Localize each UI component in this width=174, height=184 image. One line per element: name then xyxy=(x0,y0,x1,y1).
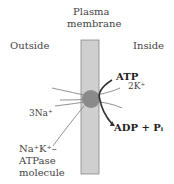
pump-label-line1: Na⁺K⁺– xyxy=(19,143,57,154)
pump-label-line2: ATPase xyxy=(19,155,56,166)
title-line2: membrane xyxy=(67,18,121,29)
pump-icon xyxy=(82,90,100,108)
title-line1: Plasma xyxy=(73,6,109,17)
pump-pointer xyxy=(53,106,84,146)
outside-label: Outside xyxy=(10,40,49,51)
inside-label: Inside xyxy=(133,40,164,51)
na-label: 3Na⁺ xyxy=(29,108,53,119)
k-label: 2K⁺ xyxy=(128,81,145,92)
products-label: ADP + Pᵢ xyxy=(114,122,163,133)
atp-hydrolysis-arrow xyxy=(99,80,112,124)
pump-label-line3: molecule xyxy=(19,167,65,178)
